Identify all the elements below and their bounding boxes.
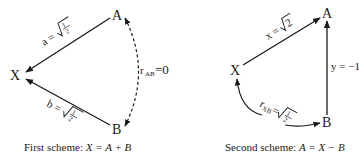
scheme1-diagram: A X B a = 1 2 b = 1 2 r AB =0 [10, 8, 169, 137]
scheme2-edge-x-to-a [243, 18, 320, 65]
svg-text:r: r [140, 64, 144, 76]
svg-text:x =: x = [263, 24, 282, 42]
svg-text:2: 2 [282, 116, 289, 125]
svg-text:b =: b = [45, 97, 63, 114]
scheme1-label-a: a = 1 2 [38, 17, 77, 50]
scheme2-correlation-arc-lower [285, 123, 320, 126]
scheme1-node-b: B [112, 122, 121, 137]
path-diagrams: A X B a = 1 2 b = 1 2 r AB =0 [0, 0, 359, 158]
scheme1-caption-prefix: First scheme: [24, 141, 86, 153]
scheme2-caption-equation: A = X − B [299, 141, 345, 153]
scheme2-label-x: x = 2 [262, 13, 297, 42]
svg-text:AB: AB [145, 70, 155, 78]
scheme2-diagram: A X B x = 2 y = −1 r XB = 1 2 [230, 6, 359, 130]
scheme2-node-b: B [322, 115, 331, 130]
scheme2-correlation-arc-upper [237, 79, 262, 115]
svg-text:=: = [270, 104, 281, 118]
svg-text:y = −1: y = −1 [331, 60, 359, 72]
svg-text:=0: =0 [155, 62, 169, 77]
svg-text:2: 2 [64, 27, 72, 36]
scheme2-node-x: X [230, 63, 240, 78]
scheme1-caption-equation: X = A + B [86, 141, 132, 153]
scheme2-label-correlation: r XB = 1 2 [257, 95, 297, 126]
scheme2-label-y: y = −1 [331, 60, 359, 72]
scheme2-caption: Second scheme: A = X − B [225, 141, 345, 153]
scheme1-label-correlation: r AB =0 [139, 62, 169, 78]
scheme1-node-x: X [10, 68, 20, 83]
svg-text:2: 2 [67, 115, 74, 124]
svg-text:a =: a = [39, 30, 57, 48]
scheme1-node-a: A [112, 8, 123, 23]
scheme1-caption: First scheme: X = A + B [24, 141, 131, 153]
scheme2-node-a: A [322, 6, 333, 21]
scheme2-caption-prefix: Second scheme: [225, 141, 299, 153]
scheme1-correlation-arc [125, 18, 139, 126]
